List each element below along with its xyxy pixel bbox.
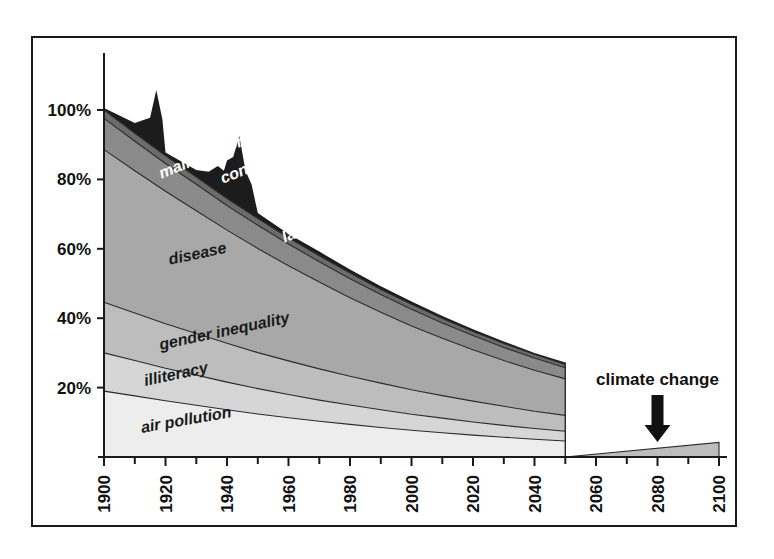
- x-tick-label-2060: 2060: [587, 475, 606, 513]
- x-tick-labels-group: 1900192019401960198020002020204020602080…: [95, 475, 729, 513]
- band-label-lack-of-free-trade: lack of free trade: [279, 182, 404, 246]
- x-tick-label-2080: 2080: [649, 475, 668, 513]
- x-tick-label-1900: 1900: [95, 475, 114, 513]
- chart-page: 20%40%60%80%100% 19001920194019601980200…: [0, 0, 774, 559]
- y-tick-label-40pct: 40%: [57, 309, 91, 328]
- y-tick-labels-group: 20%40%60%80%100%: [48, 101, 91, 398]
- x-tick-label-1960: 1960: [280, 475, 299, 513]
- climate-change-wedge-group: [565, 442, 719, 457]
- x-tick-label-2100: 2100: [710, 475, 729, 513]
- climate-change-label: climate change: [596, 370, 719, 389]
- y-tick-label-80pct: 80%: [57, 170, 91, 189]
- climate-change-wedge: [565, 442, 719, 457]
- x-tick-label-1940: 1940: [218, 475, 237, 513]
- stacked-area-chart: 20%40%60%80%100% 19001920194019601980200…: [33, 38, 735, 525]
- x-tick-label-1980: 1980: [341, 475, 360, 513]
- y-tick-label-100pct: 100%: [48, 101, 91, 120]
- y-tick-label-20pct: 20%: [57, 379, 91, 398]
- x-tick-label-2020: 2020: [464, 475, 483, 513]
- y-tick-label-60pct: 60%: [57, 240, 91, 259]
- x-tick-label-1920: 1920: [157, 475, 176, 513]
- climate-change-annotation: climate change: [596, 370, 719, 442]
- x-tick-label-2040: 2040: [526, 475, 545, 513]
- chart-frame: 20%40%60%80%100% 19001920194019601980200…: [31, 36, 737, 527]
- x-tick-label-2000: 2000: [403, 475, 422, 513]
- down-arrow-icon: [645, 395, 671, 442]
